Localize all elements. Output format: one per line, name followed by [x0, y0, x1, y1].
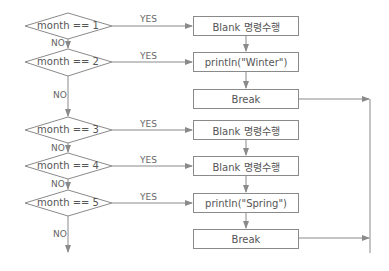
action-box-blank-1: Blank 명령수행 — [193, 16, 299, 36]
action-box-break-1: Break — [193, 89, 299, 109]
action-box-println-spring: println("Spring") — [193, 193, 299, 213]
action-box-blank-3: Blank 명령수행 — [193, 120, 299, 140]
yes-label-1: YES — [140, 14, 157, 24]
yes-label-2: YES — [140, 51, 157, 61]
decision-label-4: month == 4 — [23, 160, 113, 171]
decision-label-5: month == 5 — [23, 197, 113, 208]
decision-label-1: month == 1 — [23, 20, 113, 31]
decision-label-3: month == 3 — [23, 124, 113, 135]
yes-label-5: YES — [140, 192, 157, 202]
action-box-blank-4: Blank 명령수행 — [193, 156, 299, 176]
action-box-println-winter: println("Winter") — [193, 52, 299, 72]
action-box-break-2: Break — [193, 229, 299, 249]
yes-label-4: YES — [140, 155, 157, 165]
yes-label-3: YES — [140, 119, 157, 129]
no-label-1: NO — [51, 38, 65, 48]
no-label-2: NO — [53, 90, 67, 100]
no-label-3: NO — [51, 143, 65, 153]
no-label-4: NO — [51, 179, 65, 189]
no-label-5: NO — [53, 229, 67, 239]
decision-label-2: month == 2 — [23, 56, 113, 67]
